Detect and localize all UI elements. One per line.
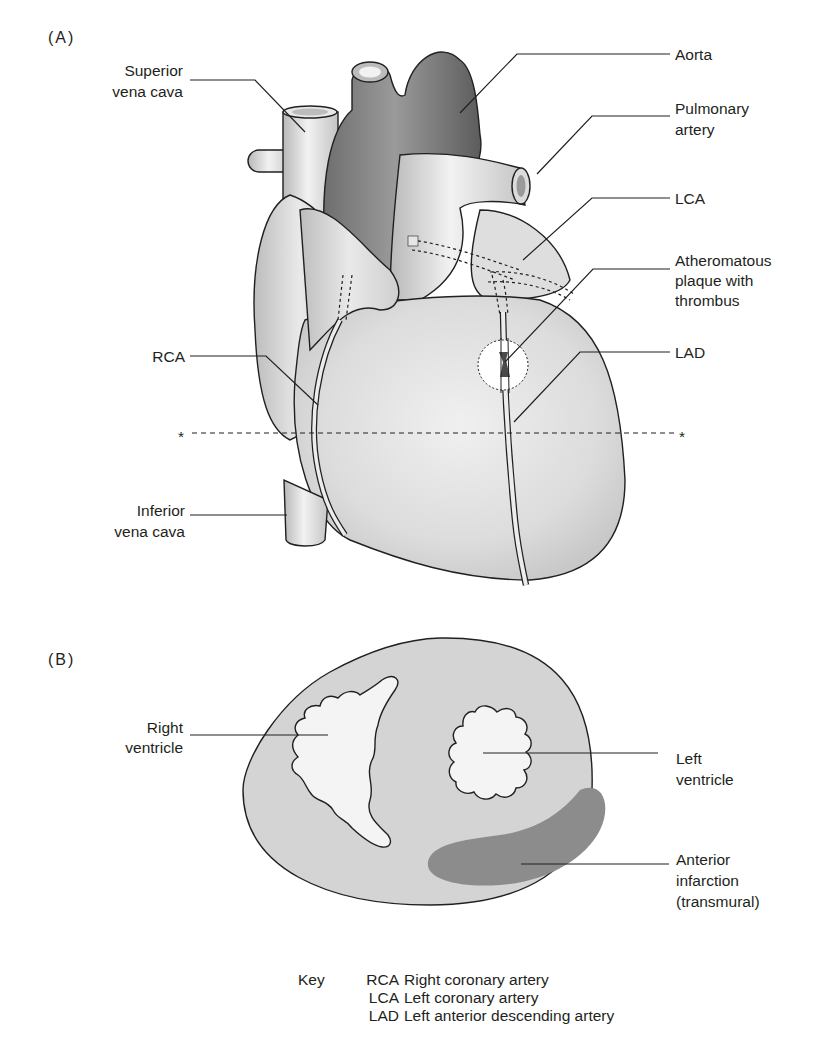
- key-title: Key: [298, 971, 325, 988]
- cross-section: [243, 638, 605, 905]
- label-infarction-3: (transmural): [676, 893, 760, 910]
- label-pulmonary-artery-1: Pulmonary: [675, 100, 749, 117]
- panel-b-label: (B): [48, 651, 75, 668]
- panel-a-label: (A): [48, 29, 75, 46]
- label-infarction-1: Anterior: [676, 851, 730, 868]
- label-inferior-vena-cava-2: vena cava: [114, 523, 185, 540]
- heart-diagram: (A): [0, 0, 822, 1058]
- label-rca: RCA: [152, 348, 185, 365]
- label-plaque-1: Atheromatous: [675, 252, 772, 269]
- label-plaque-3: thrombus: [675, 292, 740, 309]
- label-aorta: Aorta: [675, 46, 712, 63]
- label-pulmonary-artery-2: artery: [675, 121, 715, 138]
- section-marker-left: *: [178, 428, 184, 445]
- key-meaning-lca: Left coronary artery: [404, 989, 539, 1006]
- label-infarction-2: infarction: [676, 872, 739, 889]
- label-left-ventricle-2: ventricle: [676, 771, 734, 788]
- label-superior-vena-cava-1: Superior: [124, 62, 183, 79]
- label-plaque-2: plaque with: [675, 272, 753, 289]
- label-inferior-vena-cava-1: Inferior: [137, 502, 185, 519]
- key-abbr-lca: LCA: [369, 989, 400, 1006]
- label-lca: LCA: [675, 190, 706, 207]
- label-right-ventricle-2: ventricle: [125, 739, 183, 756]
- label-lad: LAD: [675, 344, 705, 361]
- label-right-ventricle-1: Right: [147, 719, 184, 736]
- key-abbr-rca: RCA: [366, 971, 399, 988]
- label-left-ventricle-1: Left: [676, 750, 703, 767]
- key: Key RCA Right coronary artery LCA Left c…: [298, 971, 614, 1024]
- label-superior-vena-cava-2: vena cava: [112, 83, 183, 100]
- key-meaning-lad: Left anterior descending artery: [404, 1007, 614, 1024]
- section-marker-right: *: [679, 428, 685, 445]
- left-atrium: [471, 210, 570, 300]
- key-meaning-rca: Right coronary artery: [404, 971, 549, 988]
- key-abbr-lad: LAD: [369, 1007, 399, 1024]
- ventricles: [294, 296, 625, 580]
